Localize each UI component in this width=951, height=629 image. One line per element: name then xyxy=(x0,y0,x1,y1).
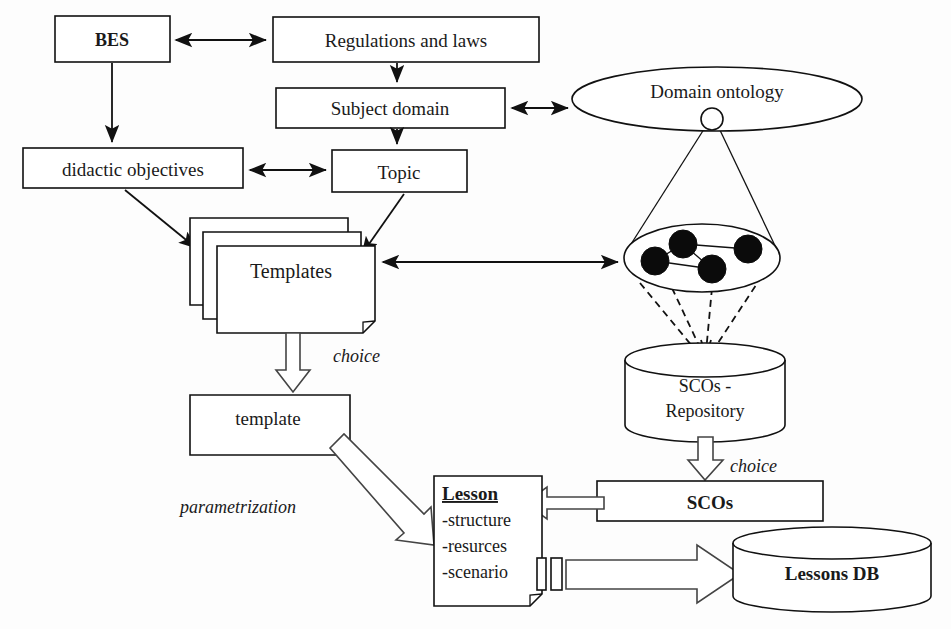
label-lesson-item-1: -resurces xyxy=(442,536,507,556)
process-diagram: BES Regulations and laws Subject domain … xyxy=(0,0,951,629)
label-lesson-item-0: -structure xyxy=(442,510,511,530)
label-domain-ontology: Domain ontology xyxy=(650,81,784,102)
hollow-arrow-templates-to-template xyxy=(276,333,310,392)
label-parametrization: parametrization xyxy=(178,497,296,517)
hollow-arrow-parametrization xyxy=(330,434,434,545)
label-scos-repository-line2: Repository xyxy=(666,401,745,421)
node-sco-cluster[interactable] xyxy=(624,224,780,292)
sco-node-3 xyxy=(698,255,726,283)
hollow-arrow-lesson-to-lessons-db xyxy=(537,545,740,603)
label-choice-scos: choice xyxy=(730,456,777,476)
label-lesson-title: Lesson xyxy=(442,483,498,504)
label-lesson-item-2: -scenario xyxy=(442,562,508,582)
hollow-arrow-repository-to-scos xyxy=(688,437,723,480)
sco-node-1 xyxy=(641,247,669,275)
label-templates: Templates xyxy=(250,260,332,283)
label-scos-repository-line1: SCOs - xyxy=(679,376,732,396)
label-didactic-objectives: didactic objectives xyxy=(62,159,204,180)
label-scos: SCOs xyxy=(687,492,733,513)
label-topic: Topic xyxy=(378,162,421,183)
label-bes: BES xyxy=(95,30,129,50)
label-subject-domain: Subject domain xyxy=(331,98,450,119)
label-template: template xyxy=(235,408,300,429)
label-regulations-and-laws: Regulations and laws xyxy=(325,30,488,51)
label-choice-templates: choice xyxy=(333,346,380,366)
edge-didactic-templates xyxy=(125,190,196,248)
sco-node-2 xyxy=(669,230,697,258)
ontology-apex-circle xyxy=(701,108,723,130)
sco-node-4 xyxy=(734,235,762,263)
diagram-canvas: BES Regulations and laws Subject domain … xyxy=(0,0,951,629)
edge-topic-templates xyxy=(362,194,404,254)
label-lessons-db: Lessons DB xyxy=(785,563,880,584)
